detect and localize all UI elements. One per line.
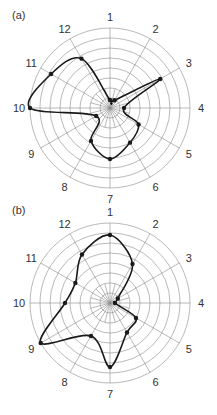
grid-spoke — [110, 39, 150, 108]
axis-label: 6 — [152, 376, 158, 388]
axis-label: 11 — [25, 57, 36, 69]
data-point — [116, 296, 120, 300]
polar-charts-canvas: 123456789101112(a) 123456789101112(b) — [0, 0, 217, 415]
data-point — [108, 98, 112, 102]
data-point — [28, 106, 32, 110]
axis-label: 2 — [152, 218, 158, 230]
data-point — [49, 72, 53, 76]
grid-spoke — [110, 263, 179, 303]
grid-spoke — [41, 108, 110, 148]
data-point — [89, 139, 93, 143]
axis-label: 9 — [28, 343, 34, 355]
axis-label: 3 — [186, 252, 192, 264]
axis-label: 11 — [25, 252, 36, 264]
data-point — [128, 140, 132, 144]
data-point — [130, 262, 134, 266]
data-point — [158, 77, 162, 81]
axis-label: 10 — [13, 297, 25, 309]
grid-spoke — [110, 234, 150, 303]
polar-chart-b: 123456789101112(b) — [12, 204, 204, 400]
panel-label: (b) — [12, 204, 25, 216]
grid-spoke — [110, 108, 179, 148]
grid-spoke — [70, 234, 110, 303]
axis-label: 8 — [61, 376, 67, 388]
axis-label: 5 — [186, 343, 192, 355]
data-point — [39, 341, 43, 345]
axis-label: 1 — [107, 11, 113, 23]
polar-figure: 123456789101112(a) 123456789101112(b) — [0, 0, 217, 415]
data-point — [125, 330, 129, 334]
grid-spoke — [110, 68, 179, 108]
data-point — [113, 301, 117, 305]
axis-label: 3 — [186, 57, 192, 69]
axis-label: 12 — [58, 23, 70, 35]
data-point — [73, 281, 77, 285]
data-point — [108, 157, 112, 161]
grid-spoke — [110, 303, 179, 343]
data-point — [89, 334, 93, 338]
axis-label: 12 — [58, 218, 70, 230]
axis-label: 7 — [107, 193, 113, 205]
data-point — [134, 316, 138, 320]
axis-label: 2 — [152, 23, 158, 35]
axis-label: 9 — [28, 148, 34, 160]
data-point — [79, 56, 83, 60]
grid-spoke — [70, 39, 110, 108]
data-point — [80, 252, 84, 256]
data-point — [108, 365, 112, 369]
data-point — [63, 301, 67, 305]
data-point — [112, 98, 116, 102]
data-point — [108, 233, 112, 237]
data-point — [136, 122, 140, 126]
polar-chart-a: 123456789101112(a) — [12, 9, 204, 205]
data-point — [94, 114, 98, 118]
axis-label: 4 — [198, 297, 204, 309]
axis-label: 8 — [61, 181, 67, 193]
axis-label: 7 — [107, 388, 113, 400]
axis-label: 1 — [107, 206, 113, 218]
panel-label: (a) — [12, 9, 25, 21]
axis-label: 5 — [186, 148, 192, 160]
axis-label: 4 — [198, 102, 204, 114]
axis-label: 6 — [152, 181, 158, 193]
axis-label: 10 — [13, 102, 25, 114]
data-point — [122, 106, 126, 110]
